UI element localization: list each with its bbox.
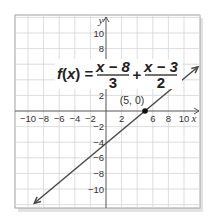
y-tick-label: −10 [88, 184, 104, 195]
y-tick-label: −2 [93, 121, 104, 132]
y-tick-label: 2 [99, 90, 104, 101]
y-axis-label: y [98, 14, 104, 26]
x-intercept-point [142, 108, 148, 114]
y-tick-label: 10 [93, 28, 104, 39]
point-label: (5, 0) [120, 94, 145, 106]
x-tick-label: −10 [20, 113, 36, 124]
y-tick-label: 8 [99, 43, 104, 54]
x-tick-label: 2 [119, 113, 124, 124]
term1-numerator: x − 8 [95, 58, 130, 75]
x-tick-label: 10 [179, 113, 190, 124]
function-graph: −10−8−6−4−2268101082−2−4−6−8−10xy (5, 0)… [0, 0, 215, 217]
equation-label: f(x) = x − 8 3 + x − 3 2 [55, 58, 182, 91]
x-tick-label: 8 [166, 113, 171, 124]
equation-lhs: f(x) = [57, 65, 94, 82]
term2-numerator: x − 3 [143, 58, 178, 75]
x-tick-label: −6 [54, 113, 65, 124]
y-tick-label: −8 [93, 168, 104, 179]
x-tick-label: 6 [150, 113, 155, 124]
x-axis-label: x [191, 112, 197, 124]
x-tick-label: −4 [69, 113, 80, 124]
y-tick-label: −6 [93, 152, 104, 163]
term1-denominator: 3 [109, 74, 117, 91]
x-tick-label: −8 [38, 113, 49, 124]
term2-denominator: 2 [157, 74, 165, 91]
equation-plus: + [133, 66, 142, 83]
